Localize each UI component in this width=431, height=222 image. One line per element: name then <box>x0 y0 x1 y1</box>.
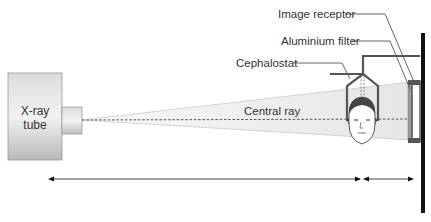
patient-head-icon <box>348 97 377 144</box>
cephalostat-leader-diag <box>342 63 350 79</box>
midsagittal-to-receptor-distance-arrow <box>363 177 414 182</box>
image-receptor <box>412 81 420 142</box>
image-receptor-bottom-clamp <box>408 138 420 143</box>
central-ray-label: Central ray <box>244 105 300 117</box>
source-to-midsagittal-distance-arrow <box>48 177 361 182</box>
aluminium-filter-label: Aluminium filter <box>281 35 360 47</box>
cephalometric-diagram: X-ray tube Central ray Image receptor Al… <box>0 0 431 222</box>
x-ray-tube-label-line1: X-ray <box>21 104 50 118</box>
image-receptor-leader-diag <box>385 14 414 82</box>
image-receptor-label: Image receptor <box>278 8 356 20</box>
x-ray-tube-label-line2: tube <box>23 118 47 132</box>
collimator <box>62 107 82 134</box>
image-receptor-top-clamp <box>408 80 420 85</box>
cephalostat-label: Cephalostat <box>236 57 298 69</box>
wall-support <box>421 33 425 213</box>
